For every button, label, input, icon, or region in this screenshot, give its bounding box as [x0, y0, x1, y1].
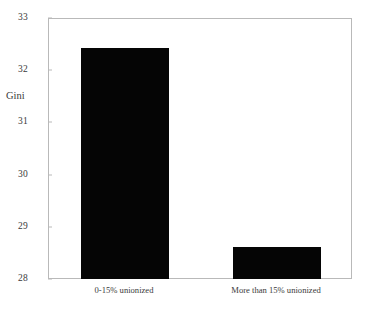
y-axis-tick-mark [48, 70, 52, 71]
y-axis-tick-mark [48, 226, 52, 227]
y-axis-tick-mark [48, 122, 52, 123]
y-axis-tick-label: 32 [18, 65, 28, 75]
y-axis-tick-label: 29 [18, 222, 28, 232]
y-axis-tick-label: 30 [18, 170, 28, 180]
plot-area [48, 18, 352, 279]
y-axis-tick-mark [48, 18, 52, 19]
bar [81, 48, 170, 279]
y-axis: 282930313233 [0, 0, 48, 315]
y-axis-tick-label: 28 [18, 274, 28, 284]
bar-chart: Gini 282930313233 0-15% unionizedMore th… [0, 0, 365, 315]
y-axis-tick-label: 31 [18, 118, 28, 128]
x-axis-category-label: More than 15% unionized [231, 286, 321, 295]
bar [233, 247, 322, 279]
y-axis-tick-label: 33 [18, 13, 28, 23]
y-axis-tick-mark [48, 174, 52, 175]
x-axis-category-label: 0-15% unionized [95, 286, 154, 295]
y-axis-tick-mark [48, 279, 52, 280]
